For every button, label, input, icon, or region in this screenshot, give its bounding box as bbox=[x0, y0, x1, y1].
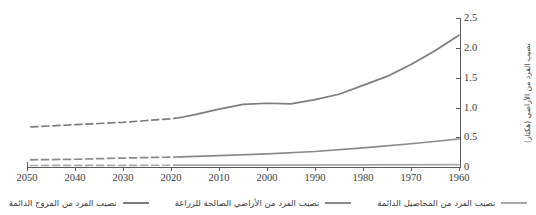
x-tick-2000 bbox=[267, 167, 268, 171]
x-tick-2010 bbox=[219, 167, 220, 171]
y-tick-label-2p0: 2.0 bbox=[464, 42, 494, 53]
series-line-0-historical bbox=[181, 35, 459, 117]
x-tick-2030 bbox=[123, 167, 124, 171]
chart-container: 2050 2040 2030 2020 2010 2000 1990 1980 … bbox=[0, 0, 536, 215]
x-tick-label-2020: 2020 bbox=[149, 172, 193, 183]
y-tick-0p5 bbox=[456, 137, 460, 138]
x-tick-2020 bbox=[171, 167, 172, 171]
legend-label-0: نصيب الفرد من المروج الدائمة bbox=[9, 198, 117, 208]
legend-swatch-2 bbox=[501, 202, 527, 204]
y-tick-2p0 bbox=[456, 48, 460, 49]
legend-item-0[interactable]: نصيب الفرد من المروج الدائمة bbox=[9, 198, 149, 208]
x-tick-label-1990: 1990 bbox=[293, 172, 337, 183]
legend-swatch-0 bbox=[123, 202, 149, 204]
series-line-0-projected bbox=[27, 118, 181, 128]
y-tick-1p5 bbox=[456, 78, 460, 79]
x-tick-label-1960: 1960 bbox=[437, 172, 481, 183]
y-tick-label-1p0: 1.0 bbox=[464, 102, 494, 113]
x-tick-label-2040: 2040 bbox=[53, 172, 97, 183]
x-tick-1980 bbox=[363, 167, 364, 171]
x-tick-2040 bbox=[75, 167, 76, 171]
legend-label-1: نصيب الفرد من الأراضي الصالحة للزراعة bbox=[175, 198, 320, 208]
y-axis-line bbox=[460, 18, 461, 168]
x-tick-label-1970: 1970 bbox=[389, 172, 433, 183]
x-tick-label-2010: 2010 bbox=[197, 172, 241, 183]
x-tick-label-2050: 2050 bbox=[5, 172, 49, 183]
x-tick-label-2000: 2000 bbox=[245, 172, 289, 183]
y-tick-0 bbox=[456, 167, 460, 168]
y-tick-label-0p5: 0.5 bbox=[464, 131, 494, 142]
y-tick-1p0 bbox=[456, 108, 460, 109]
series-line-2-historical bbox=[181, 165, 459, 166]
y-tick-label-1p5: 1.5 bbox=[464, 72, 494, 83]
x-tick-1990 bbox=[315, 167, 316, 171]
x-tick-1970 bbox=[411, 167, 412, 171]
legend: نصيب الفرد من المروج الدائمة نصيب الفرد … bbox=[0, 193, 536, 213]
legend-label-2: نصيب الفرد من المحاصيل الدائمة bbox=[377, 198, 495, 208]
legend-swatch-1 bbox=[325, 202, 351, 204]
series-line-1-historical bbox=[181, 139, 459, 157]
x-tick-2050 bbox=[27, 167, 28, 171]
x-axis-line bbox=[27, 167, 461, 168]
y-tick-label-0: 0 bbox=[464, 161, 494, 172]
legend-item-2[interactable]: نصيب الفرد من المحاصيل الدائمة bbox=[377, 198, 527, 208]
y-axis-title: نصيب الفرد من الأراضي (هكتار) bbox=[520, 18, 534, 168]
legend-item-1[interactable]: نصيب الفرد من الأراضي الصالحة للزراعة bbox=[175, 198, 352, 208]
y-tick-label-2p5: 2.5 bbox=[464, 12, 494, 23]
series-line-1-projected bbox=[27, 157, 181, 160]
y-tick-2p5 bbox=[456, 18, 460, 19]
x-tick-label-2030: 2030 bbox=[101, 172, 145, 183]
x-tick-label-1980: 1980 bbox=[341, 172, 385, 183]
